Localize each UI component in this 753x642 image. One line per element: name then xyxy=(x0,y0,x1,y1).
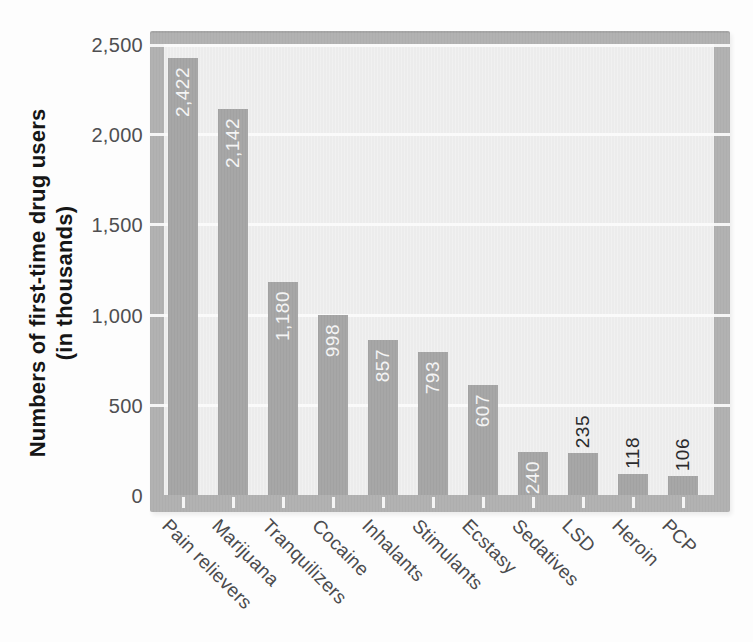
bar-value-label-tranquilizers: 1,180 xyxy=(272,291,294,341)
x-tick-pain-relievers xyxy=(182,497,185,508)
y-tick-label-1000: 1,000 xyxy=(30,304,143,328)
bar-value-label-stimulants: 793 xyxy=(422,361,444,394)
x-tick-tranquilizers xyxy=(282,497,285,508)
grid-notch-right-500 xyxy=(714,404,730,407)
x-tick-marijuana xyxy=(232,497,235,508)
y-tick-label-2500: 2,500 xyxy=(30,33,143,57)
bar-value-label-pain-relievers: 2,422 xyxy=(172,67,194,117)
grid-notch-right-2500 xyxy=(714,44,730,47)
bar-tranquilizers: 1,180 xyxy=(268,282,298,495)
bar-value-label-heroin: 118 xyxy=(622,437,644,469)
category-label-lsd: LSD xyxy=(557,515,599,557)
x-tick-ecstasy xyxy=(482,497,485,508)
bar-inhalants: 857 xyxy=(368,340,398,495)
grid-notch-left-1000 xyxy=(150,314,164,317)
bar-ecstasy: 607 xyxy=(468,385,498,495)
bar-pcp: 106 xyxy=(668,476,698,495)
bar-sedatives: 240 xyxy=(518,452,548,495)
bar-value-label-pcp: 106 xyxy=(672,438,694,471)
bar-lsd: 235 xyxy=(568,453,598,495)
x-tick-inhalants xyxy=(382,497,385,508)
grid-notch-right-2000 xyxy=(714,133,730,136)
x-tick-sedatives xyxy=(532,497,535,508)
category-label-pcp: PCP xyxy=(657,515,701,559)
x-tick-pcp xyxy=(682,497,685,508)
grid-notch-left-2500 xyxy=(150,44,164,47)
bar-value-label-cocaine: 998 xyxy=(322,324,344,357)
bar-value-label-sedatives: 240 xyxy=(522,461,544,494)
x-tick-lsd xyxy=(582,497,585,508)
bar-value-label-marijuana: 2,142 xyxy=(222,118,244,168)
y-tick-label-1500: 1,500 xyxy=(30,213,143,237)
bar-stimulants: 793 xyxy=(418,352,448,495)
grid-notch-left-500 xyxy=(150,404,164,407)
bar-marijuana: 2,142 xyxy=(218,109,248,495)
x-tick-stimulants xyxy=(432,497,435,508)
y-tick-label-2000: 2,000 xyxy=(30,123,143,147)
plot-area: 2,4222,1421,180998857793607240235118106 xyxy=(164,44,714,495)
gridline-2500 xyxy=(164,44,714,47)
bar-value-label-ecstasy: 607 xyxy=(472,394,494,427)
category-label-heroin: Heroin xyxy=(607,515,663,571)
x-tick-cocaine xyxy=(332,497,335,508)
grid-notch-right-1000 xyxy=(714,314,730,317)
bar-value-label-inhalants: 857 xyxy=(372,349,394,382)
plot-frame: 2,4222,1421,180998857793607240235118106 xyxy=(150,31,730,512)
y-tick-label-500: 500 xyxy=(30,394,143,418)
bar-cocaine: 998 xyxy=(318,315,348,495)
grid-notch-left-2000 xyxy=(150,133,164,136)
y-tick-label-0: 0 xyxy=(30,484,143,508)
x-tick-heroin xyxy=(632,497,635,508)
bar-pain-relievers: 2,422 xyxy=(168,58,198,495)
bar-heroin: 118 xyxy=(618,474,648,495)
grid-notch-left-1500 xyxy=(150,223,164,226)
scanned-bar-chart-page: Numbers of first-time drug users (in tho… xyxy=(0,0,753,642)
grid-notch-right-1500 xyxy=(714,223,730,226)
bar-value-label-lsd: 235 xyxy=(572,415,594,448)
